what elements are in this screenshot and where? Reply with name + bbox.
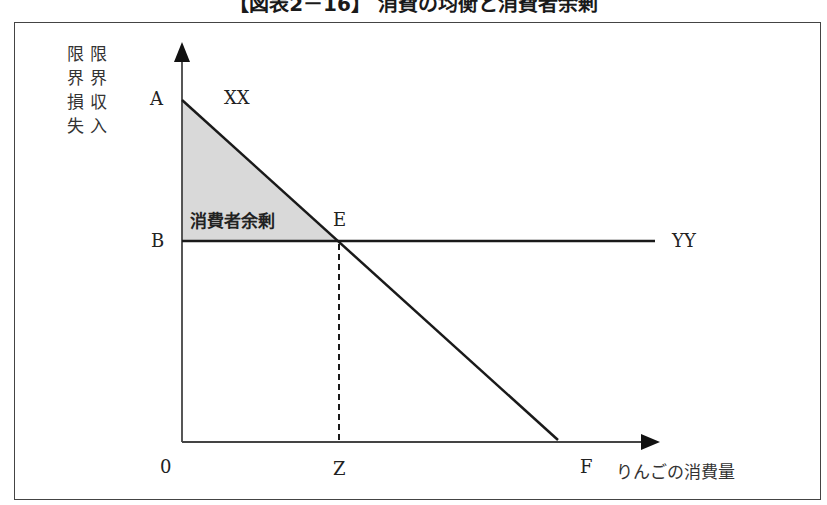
line-label-xx: XX bbox=[224, 89, 250, 107]
x-axis-arrow-icon bbox=[641, 434, 660, 450]
x-axis-label: りんごの消費量 bbox=[616, 458, 735, 483]
point-label-f: F bbox=[580, 458, 593, 476]
point-label-e: E bbox=[333, 211, 346, 229]
consumer-surplus-label: 消費者余剰 bbox=[190, 207, 275, 232]
y-label-marginal-revenue: 限界収入 bbox=[88, 42, 108, 138]
y-axis-arrow-icon bbox=[174, 42, 190, 62]
point-label-z: Z bbox=[333, 460, 346, 478]
economics-diagram bbox=[0, 0, 827, 505]
point-label-origin: 0 bbox=[160, 458, 171, 476]
line-label-yy: YY bbox=[672, 232, 696, 250]
point-label-b: B bbox=[151, 232, 164, 250]
y-label-marginal-loss: 限界損失 bbox=[65, 42, 85, 138]
line-xx bbox=[182, 100, 558, 440]
point-label-a: A bbox=[150, 90, 163, 108]
